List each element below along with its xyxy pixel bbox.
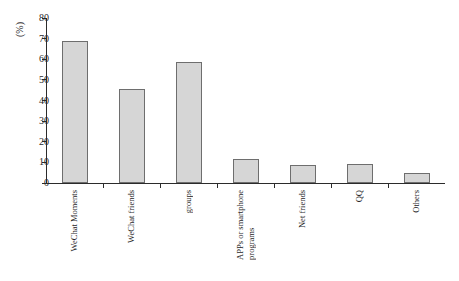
x-axis-category-label-line: programs <box>246 190 257 260</box>
x-axis-tick-mark <box>103 184 104 188</box>
y-axis-tick-mark <box>42 162 47 163</box>
x-axis-category-label: Others <box>411 190 422 213</box>
x-axis-category-label: groups <box>183 190 194 213</box>
x-axis-category-label-line: WeChat Moments <box>69 190 80 251</box>
x-axis-category-label: WeChat Moments <box>69 190 80 251</box>
y-axis-tick-label: 50 <box>22 74 52 86</box>
y-axis-tick-mark <box>42 59 47 60</box>
y-axis-tick-mark <box>42 38 47 39</box>
bar <box>62 41 88 183</box>
y-axis-tick-label: 20 <box>22 136 52 148</box>
x-axis-tick-mark <box>274 184 275 188</box>
bar <box>119 89 145 183</box>
x-axis-tick-mark <box>217 184 218 188</box>
y-axis-tick-mark <box>42 79 47 80</box>
x-axis-tick-mark <box>388 184 389 188</box>
x-axis-tick-mark <box>331 184 332 188</box>
x-axis-category-label-line: groups <box>183 190 194 213</box>
bar <box>347 164 373 183</box>
y-axis-tick-mark <box>42 121 47 122</box>
y-axis-tick-mark <box>42 18 47 19</box>
bar-chart: (%) 80706050403020100 WeChat MomentsWeCh… <box>0 0 459 281</box>
x-axis-category-label-line: Net friends <box>297 190 308 228</box>
y-axis-tick-mark <box>42 141 47 142</box>
x-axis-category-label-line: QQ <box>354 190 365 202</box>
y-axis-tick-label: 30 <box>22 115 52 127</box>
bar <box>233 159 259 183</box>
bar <box>290 165 316 183</box>
x-axis-category-label-line: WeChat friends <box>126 190 137 243</box>
y-axis-tick-mark <box>42 100 47 101</box>
x-axis-category-label-line: APPs or smartphone <box>235 190 246 260</box>
x-axis-tick-mark <box>160 184 161 188</box>
y-axis-tick-label: 80 <box>22 12 52 24</box>
y-axis-tick-label: 70 <box>22 33 52 45</box>
y-axis-tick-label: 40 <box>22 95 52 107</box>
y-axis-tick-label: 10 <box>22 156 52 168</box>
x-axis-category-label: WeChat friends <box>126 190 137 243</box>
x-axis-category-label: QQ <box>354 190 365 202</box>
y-axis-tick-label: 60 <box>22 53 52 65</box>
x-axis-category-label-line: Others <box>411 190 422 213</box>
bar <box>404 173 430 183</box>
bar <box>176 62 202 183</box>
x-axis-line <box>46 183 445 184</box>
x-axis-category-label: Net friends <box>297 190 308 228</box>
x-axis-category-label: APPs or smartphoneprograms <box>235 190 257 260</box>
